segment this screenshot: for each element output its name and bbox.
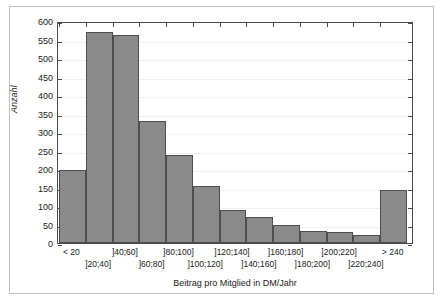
y-axis-tick-label: 300	[23, 129, 53, 138]
y-axis-tick-label: 450	[23, 73, 53, 82]
plot-area	[57, 22, 413, 244]
y-axis-tick-label: 350	[23, 110, 53, 119]
y-axis-tick-label: 500	[23, 55, 53, 64]
y-axis-tick-label: 0	[23, 240, 53, 249]
bar	[220, 210, 247, 243]
x-axis-title: Beitrag pro Mitglied in DM/Jahr	[57, 278, 413, 288]
y-axis-tick-label: 100	[23, 203, 53, 212]
y-axis-tick-label: 250	[23, 147, 53, 156]
y-axis-tick-label: 50	[23, 221, 53, 230]
y-axis-tick-label: 550	[23, 36, 53, 45]
x-axis-tick-label: ]100;120]	[187, 260, 222, 269]
y-axis-title: Anzahl	[9, 85, 19, 113]
bar	[166, 155, 193, 243]
x-axis-tick-label: ]180;200]	[295, 260, 330, 269]
bar	[273, 225, 300, 243]
bar	[300, 231, 327, 243]
bar-series	[58, 23, 412, 243]
y-axis-tick-label: 200	[23, 166, 53, 175]
x-axis-tick-label: ]80;100]	[163, 248, 194, 257]
x-axis-tick-label: ]40;60]	[112, 248, 138, 257]
bar	[139, 121, 166, 243]
x-axis-tick-label: > 240	[382, 248, 404, 257]
x-axis-tick-label: ]120;140]	[214, 248, 249, 257]
x-axis-tick-label: ]60;80]	[139, 260, 165, 269]
y-axis-tick-labels: 050100150200250300350400450500550600	[19, 22, 53, 244]
bar	[193, 186, 220, 243]
bar	[353, 235, 380, 243]
bar	[113, 35, 140, 243]
bar	[59, 170, 86, 243]
bar	[86, 32, 113, 243]
histogram-figure: Anzahl 050100150200250300350400450500550…	[0, 0, 443, 306]
x-axis-tick-label: ]160;180]	[268, 248, 303, 257]
bar	[380, 190, 407, 243]
y-axis-tick-label: 400	[23, 92, 53, 101]
x-axis-tick-label: ]20;40]	[85, 260, 111, 269]
y-axis-tick-label: 150	[23, 184, 53, 193]
y-axis-tick-label: 600	[23, 18, 53, 27]
x-axis-tick-label: ]140;160]	[241, 260, 276, 269]
x-axis-tick-label: < 20	[63, 248, 80, 257]
x-axis-tick-label: ]220;240]	[348, 260, 383, 269]
x-axis-tick-label: ]200;220]	[321, 248, 356, 257]
bar	[246, 217, 273, 243]
x-axis-tick-labels: < 20]20;40]]40;60]]60;80]]80;100]]100;12…	[57, 246, 413, 276]
bar	[327, 232, 354, 243]
